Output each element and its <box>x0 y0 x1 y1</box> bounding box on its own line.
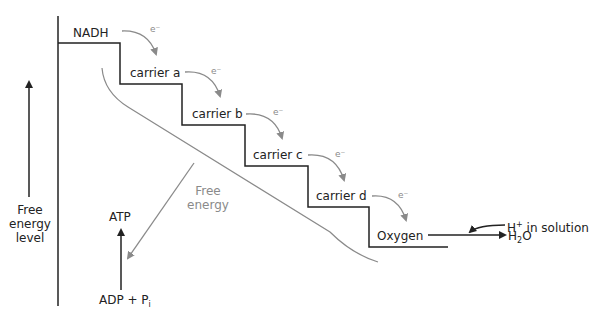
electron-label-1: e⁻ <box>150 24 160 34</box>
adp-label: ADP + Pi <box>99 293 151 312</box>
electron-arrow-1 <box>122 31 156 54</box>
carrier-label-nadh: NADH <box>73 26 108 40</box>
carrier-label-oxygen: Oxygen <box>377 229 423 243</box>
axis-label-line3: level <box>4 231 56 245</box>
electron-arrow-3 <box>246 114 282 138</box>
proton-arrow <box>470 225 505 232</box>
axis-label-line1: Free <box>4 203 56 217</box>
water-h: H <box>508 229 517 243</box>
electron-label-3: e⁻ <box>273 107 283 117</box>
free-energy-label: Free energy <box>180 184 236 212</box>
carrier-label-d: carrier d <box>316 189 367 203</box>
axis-label-line2: energy <box>4 217 56 231</box>
free-energy-level-label: Free energy level <box>4 203 56 245</box>
atp-label: ATP <box>109 210 131 224</box>
carrier-label-c: carrier c <box>253 148 303 162</box>
adp-text: ADP + P <box>99 293 149 307</box>
carrier-label-a: carrier a <box>130 66 180 80</box>
water-label: H2O <box>508 229 532 248</box>
proton-rest: in solution <box>523 221 589 235</box>
adp-subscript: i <box>149 300 151 309</box>
water-o: O <box>522 229 531 243</box>
proton-sup: + <box>516 220 523 229</box>
carrier-label-b: carrier b <box>192 107 243 121</box>
free-energy-line1: Free <box>180 184 236 198</box>
electron-label-2: e⁻ <box>211 66 221 76</box>
electron-label-4: e⁻ <box>335 149 345 159</box>
electron-label-5: e⁻ <box>398 190 408 200</box>
free-energy-line2: energy <box>180 198 236 212</box>
